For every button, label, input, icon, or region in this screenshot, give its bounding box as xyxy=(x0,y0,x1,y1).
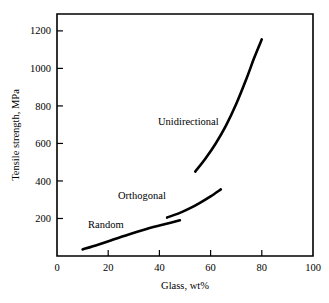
x-tick-label-80: 80 xyxy=(257,262,268,273)
y-tick-label-1200: 1200 xyxy=(30,25,51,36)
x-tick-label-40: 40 xyxy=(154,262,165,273)
x-axis-title: Glass, wt% xyxy=(161,280,209,291)
y-tick-label-600: 600 xyxy=(35,138,51,149)
x-tick-label-100: 100 xyxy=(305,262,321,273)
x-tick-label-60: 60 xyxy=(205,262,216,273)
series-label-orthogonal: Orthogonal xyxy=(118,190,166,201)
y-tick-label-200: 200 xyxy=(35,213,51,224)
chart-figure: 20040060080010001200 020406080100 Glass,… xyxy=(0,0,329,303)
chart-background xyxy=(0,0,329,303)
x-tick-label-0: 0 xyxy=(54,262,59,273)
series-label-unidirectional: Unidirectional xyxy=(158,116,219,127)
y-tick-label-400: 400 xyxy=(35,176,51,187)
chart-canvas: 20040060080010001200 020406080100 Glass,… xyxy=(0,0,329,303)
y-tick-label-800: 800 xyxy=(35,101,51,112)
series-label-random: Random xyxy=(88,219,124,230)
x-tick-label-20: 20 xyxy=(103,262,114,273)
y-axis-title: Tensile strength, MPa xyxy=(10,89,21,181)
y-tick-label-1000: 1000 xyxy=(30,63,51,74)
